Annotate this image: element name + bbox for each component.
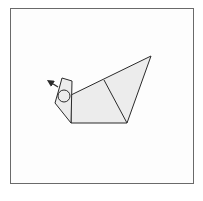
bird-head	[55, 78, 72, 123]
bird-body	[71, 56, 151, 123]
origami-bird-diagram	[0, 0, 203, 201]
fold-direction-arrow-icon	[50, 82, 58, 87]
